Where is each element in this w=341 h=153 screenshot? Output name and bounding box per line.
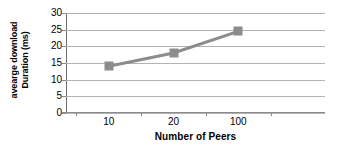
y-axis-tick-label: 0 xyxy=(36,108,62,118)
y-axis-title: avearge download Duration (ms) xyxy=(2,8,38,112)
x-axis-title: Number of Peers xyxy=(66,131,325,142)
y-axis-tick-labels: 051015202530 xyxy=(36,0,62,153)
y-axis-tick-label: 15 xyxy=(36,58,62,68)
plot-area xyxy=(66,13,325,113)
y-axis-tick-label: 30 xyxy=(36,8,62,18)
y-axis-title-line2: Duration (ms) xyxy=(20,31,31,88)
y-axis-tick-label: 10 xyxy=(36,75,62,85)
x-axis-tick-mark xyxy=(206,112,207,116)
x-axis-tick-mark xyxy=(76,112,77,116)
data-point-marker xyxy=(234,27,243,36)
y-axis-tick-label: 25 xyxy=(36,25,62,35)
y-axis-title-line1: avearge download xyxy=(9,22,20,99)
x-axis-tick-label: 100 xyxy=(218,116,258,127)
x-axis-tick-label: 20 xyxy=(154,116,194,127)
x-axis-tick-mark xyxy=(141,112,142,116)
y-axis-tick-label: 20 xyxy=(36,41,62,51)
y-axis-tick-label: 5 xyxy=(36,91,62,101)
data-point-marker xyxy=(104,62,113,71)
chart-container: avearge download Duration (ms) 051015202… xyxy=(0,0,341,153)
gridline xyxy=(66,113,325,114)
x-axis-tick-mark xyxy=(271,112,272,116)
data-point-marker xyxy=(169,49,178,58)
x-axis-tick-label: 10 xyxy=(89,116,129,127)
